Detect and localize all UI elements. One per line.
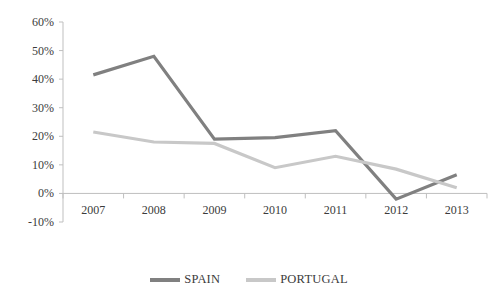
line-chart: 60%50%40%30%20%10%0%-10% 200720082009201… [0,0,498,303]
x-axis-tick-label: 2010 [263,203,287,218]
legend-entry-portugal[interactable]: PORTUGAL [246,272,348,287]
x-axis-tick-label: 2008 [142,203,166,218]
chart-plot-area [0,0,498,303]
axis-group [59,22,487,222]
x-axis-tick-label: 2012 [384,203,408,218]
legend-swatch-icon [150,278,180,282]
legend-label: SPAIN [184,272,220,287]
y-axis-tick-label: 20% [0,129,54,144]
y-axis-tick-label: 10% [0,157,54,172]
legend-label: PORTUGAL [280,272,348,287]
x-axis-ticks [63,193,487,198]
legend-swatch-icon [246,278,276,282]
chart-legend: SPAINPORTUGAL [0,272,498,287]
y-axis-tick-label: 30% [0,100,54,115]
x-axis-tick-label: 2013 [445,203,469,218]
x-axis-tick-label: 2007 [81,203,105,218]
y-axis-tick-label: 60% [0,15,54,30]
legend-entry-spain[interactable]: SPAIN [150,272,220,287]
series-line-spain [93,56,456,199]
y-axis-tick-label: -10% [0,215,54,230]
series-line-portugal [93,132,456,188]
y-axis-tick-label: 40% [0,72,54,87]
data-series-group [93,56,456,199]
y-axis-ticks [59,22,63,222]
y-axis-tick-label: 0% [0,186,54,201]
x-axis-tick-label: 2009 [202,203,226,218]
x-axis-tick-label: 2011 [324,203,348,218]
y-axis-tick-label: 50% [0,43,54,58]
